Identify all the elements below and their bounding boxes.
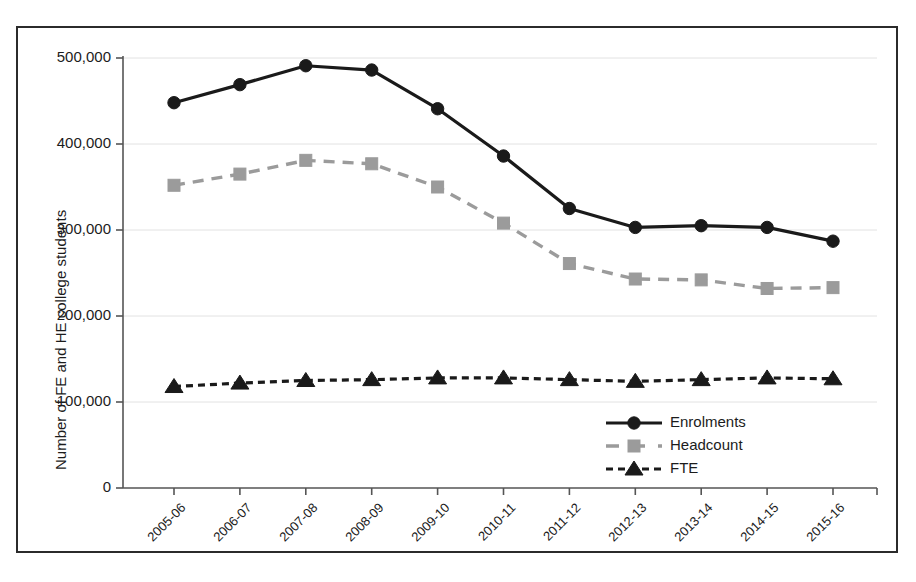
data-point-marker — [366, 158, 378, 170]
data-point-marker — [300, 60, 312, 72]
data-point-marker — [628, 440, 640, 452]
data-point-marker — [563, 258, 575, 270]
data-point-marker — [827, 235, 839, 247]
y-tick-label: 300,000 — [57, 220, 111, 237]
data-point-marker — [431, 103, 443, 115]
y-tick-label: 400,000 — [57, 134, 111, 151]
y-tick-label: 100,000 — [57, 392, 111, 409]
y-axis-title: Number of FE and HE college students — [52, 210, 69, 470]
chart-figure: Number of FE and HE college students 010… — [0, 0, 916, 582]
data-point-marker — [626, 373, 644, 387]
data-point-marker — [761, 221, 773, 233]
legend-label-enrolments: Enrolments — [670, 413, 746, 430]
y-tick-label: 0 — [103, 478, 111, 495]
data-point-marker — [498, 217, 510, 229]
legend-label-fte: FTE — [670, 459, 698, 476]
line-chart-canvas — [0, 0, 916, 582]
data-point-marker — [628, 417, 640, 429]
y-tick-label: 200,000 — [57, 306, 111, 323]
data-point-marker — [758, 370, 776, 384]
data-point-marker — [695, 220, 707, 232]
data-point-marker — [234, 78, 246, 90]
data-point-marker — [168, 179, 180, 191]
series-fte — [165, 370, 842, 393]
data-point-marker — [625, 461, 643, 475]
data-point-marker — [495, 370, 513, 384]
data-point-marker — [432, 181, 444, 193]
data-point-marker — [827, 282, 839, 294]
data-point-marker — [629, 273, 641, 285]
data-point-marker — [234, 168, 246, 180]
series-headcount — [168, 154, 839, 294]
data-point-marker — [695, 274, 707, 286]
data-point-marker — [366, 64, 378, 76]
y-tick-label: 500,000 — [57, 48, 111, 65]
legend-label-headcount: Headcount — [670, 436, 743, 453]
data-point-marker — [761, 282, 773, 294]
data-point-marker — [168, 97, 180, 109]
data-point-marker — [629, 221, 641, 233]
data-point-marker — [300, 154, 312, 166]
data-point-marker — [497, 150, 509, 162]
data-point-marker — [563, 202, 575, 214]
legend-symbols — [604, 412, 904, 492]
